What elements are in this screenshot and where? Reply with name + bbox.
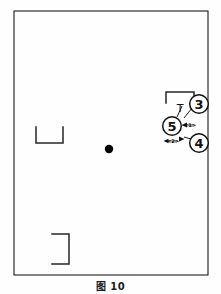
callout-4-label: 4 [194, 136, 203, 151]
dimension-label-1: <1> [184, 122, 196, 128]
dimension-label-2: <2> [167, 138, 179, 144]
arrow-right-dim2 [179, 137, 185, 142]
technical-drawing-canvas: T 3 5 4 <1> <2> [0, 0, 221, 294]
t-marker: T [176, 102, 184, 115]
figure-caption: 图 10 [0, 281, 221, 293]
bracket-bottom-right-square [52, 234, 69, 264]
bracket-left-u [36, 127, 63, 143]
center-dot [105, 145, 113, 153]
figure-page: T 3 5 4 <1> <2> 图 10 [0, 0, 221, 294]
callout-5-label: 5 [167, 119, 176, 134]
callout-3-label: 3 [194, 97, 203, 112]
